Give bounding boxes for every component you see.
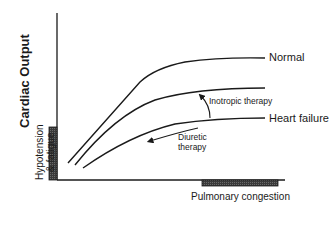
- pulmonary-congestion-label: Pulmonary congestion: [191, 192, 290, 202]
- pulmonary-congestion-block: [202, 180, 278, 186]
- heart-failure-curve: [83, 118, 265, 168]
- diuretic-label-line2: therapy: [178, 142, 207, 152]
- inotropic-therapy-label: Inotropic therapy: [209, 96, 272, 106]
- normal-curve: [68, 58, 265, 163]
- hypotension-label-line1: Hypotension: [34, 124, 45, 180]
- normal-curve-label: Normal: [269, 52, 304, 63]
- diuretic-therapy-label: Diuretic therapy: [178, 132, 207, 152]
- hypotension-label-line2: & fatigue: [45, 124, 56, 180]
- y-axis-title: Cardiac Output: [18, 34, 31, 128]
- diuretic-label-line1: Diuretic: [178, 132, 207, 142]
- hypotension-label: Hypotension & fatigue: [34, 124, 56, 180]
- heart-failure-label: Heart failure: [269, 113, 329, 124]
